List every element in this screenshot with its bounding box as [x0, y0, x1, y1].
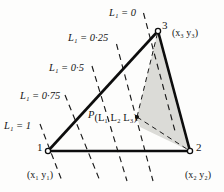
vertex-number-3: 3 [162, 20, 168, 31]
vertex-number-1: 1 [37, 142, 43, 153]
isoline-label-L1-025: L₁ = 0·25 [68, 33, 108, 44]
vertex-coord-1: (x₁ y₁) [27, 170, 53, 180]
vertex-marker-2 [187, 148, 192, 153]
vertex-coord-2: (x₂ y₂) [185, 170, 211, 180]
vertex-marker-3 [155, 28, 160, 33]
isoline-L1-075 [65, 95, 100, 181]
vertex-marker-1 [45, 148, 50, 153]
point-label-P-args: (L₁ L₂ L₃) [94, 113, 136, 124]
area-coordinates-figure: L₁ = 0 L₁ = 0·25 L₁ = 0·5 L₁ = 0·75 L₁ =… [0, 0, 224, 192]
point-label-P: P(L₁ L₂ L₃) [88, 110, 137, 121]
isoline-label-L1-05: L₁ = 0·5 [49, 63, 84, 74]
edge-1-3 [48, 31, 158, 151]
vertex-coord-3: (x₃ y₃) [172, 28, 198, 38]
isoline-label-L1-075: L₁ = 0·75 [20, 91, 60, 102]
isoline-label-L1-1: L₁ = 1 [4, 121, 31, 132]
isoline-label-L1-0: L₁ = 0 [109, 8, 136, 19]
vertex-number-2: 2 [196, 142, 202, 153]
